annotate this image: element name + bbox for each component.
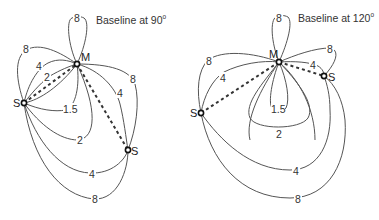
label-8-top: 8 [276, 12, 282, 24]
diagram-title: Baseline at 120o [298, 11, 374, 24]
label-1.5: 1.5 [271, 103, 286, 115]
slave-left-label: S [190, 107, 197, 119]
label-8-lower: 8 [92, 193, 98, 205]
contour-labels: 8 8 4 8 4 1.5 2 4 8 [205, 12, 334, 205]
master-label: M [81, 51, 90, 63]
diagram-baseline-90: 8 8 4 2 1.5 8 4 2 4 8 M S S Baselin [13, 12, 167, 205]
label-1.5: 1.5 [63, 103, 78, 115]
label-4-upper-left: 4 [36, 60, 42, 72]
contour-2 [249, 62, 310, 127]
label-4-upper-left: 4 [220, 72, 226, 84]
label-8-upper-left: 8 [206, 55, 212, 67]
label-2-upper: 2 [44, 71, 50, 83]
label-8-upper-left: 8 [23, 43, 29, 55]
baseline-left [24, 64, 77, 103]
label-4-right: 4 [117, 87, 123, 99]
slave-right-label: S [131, 145, 138, 157]
diagram-baseline-120: 8 8 4 8 4 1.5 2 4 8 M S S Baseline at 12… [190, 11, 374, 205]
contour-4-lower [201, 76, 330, 170]
slave-station-right [125, 147, 130, 152]
master-station [74, 61, 79, 66]
slave-station-right [321, 73, 326, 78]
label-2: 2 [276, 128, 282, 140]
slave-station-left [21, 100, 26, 105]
baseline-left [201, 62, 279, 113]
label-4-upper-right: 4 [310, 59, 316, 71]
label-8-right: 8 [130, 73, 136, 85]
label-2-lower: 2 [77, 134, 83, 146]
master-station [276, 59, 281, 64]
label-4-lower: 4 [293, 165, 299, 177]
contour-m-right-inner [279, 62, 315, 140]
diagram-canvas: 8 8 4 2 1.5 8 4 2 4 8 M S S Baselin [0, 0, 379, 220]
diagram-title: Baseline at 90o [96, 13, 167, 26]
slave-right-label: S [328, 71, 335, 83]
master-label: M [269, 48, 278, 60]
label-8-upper-right: 8 [327, 43, 333, 55]
slave-station-left [198, 110, 203, 115]
label-4-lower: 4 [89, 168, 95, 180]
label-8-lower: 8 [295, 193, 301, 205]
contour-8-lower [201, 76, 345, 198]
contour-8-lower [24, 103, 128, 199]
label-8-top: 8 [74, 12, 80, 24]
slave-left-label: S [13, 97, 20, 109]
